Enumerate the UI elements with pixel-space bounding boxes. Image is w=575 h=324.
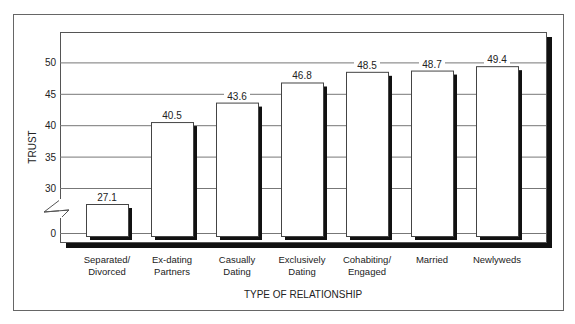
x-axis-label: TYPE OF RELATIONSHIP (244, 289, 362, 300)
x-tick-label: Newlyweds (473, 254, 521, 265)
x-tick-label: Exclusively (279, 254, 326, 265)
bar-body (412, 71, 454, 236)
y-tick-label: 0 (50, 228, 56, 239)
bar: 46.8 (282, 70, 328, 240)
y-tick-label: 30 (45, 183, 57, 194)
y-axis-label: TRUST (27, 130, 38, 163)
value-label: 27.1 (97, 192, 117, 203)
bar-chart: 03035404550 27.140.543.646.848.548.749.4… (0, 0, 575, 324)
y-tick-label: 35 (45, 152, 57, 163)
x-tick-label: Partners (154, 266, 190, 277)
bar: 49.4 (477, 54, 523, 240)
axis-break-gap (59, 199, 62, 218)
value-label: 48.7 (422, 59, 442, 70)
value-label: 46.8 (292, 70, 312, 81)
value-label: 40.5 (162, 110, 182, 121)
y-tick-label: 45 (45, 89, 57, 100)
bar-body (87, 205, 129, 237)
x-tick-label: Separated/ (84, 254, 131, 265)
bar: 48.7 (412, 59, 458, 240)
x-tick-label: Married (416, 254, 448, 265)
value-label: 49.4 (487, 54, 507, 65)
value-label: 48.5 (357, 60, 377, 71)
x-tick-label: Divorced (88, 266, 126, 277)
bar-body (347, 72, 389, 236)
bar-body (282, 83, 324, 237)
x-tick-label: Cohabiting/ (343, 254, 391, 265)
bar-body (152, 123, 194, 237)
x-tick-label: Dating (288, 266, 315, 277)
y-tick-label: 40 (45, 120, 57, 131)
x-tick-label: Dating (223, 266, 250, 277)
bar-body (477, 67, 519, 237)
bar: 48.5 (347, 60, 393, 240)
bar: 43.6 (217, 91, 263, 240)
bar: 40.5 (152, 110, 198, 240)
x-tick-label: Engaged (348, 266, 386, 277)
value-label: 43.6 (227, 91, 247, 102)
x-tick-label: Casually (219, 254, 256, 265)
bar-body (217, 103, 259, 236)
x-tick-label: Ex-dating (152, 254, 192, 265)
y-tick-label: 50 (45, 57, 57, 68)
